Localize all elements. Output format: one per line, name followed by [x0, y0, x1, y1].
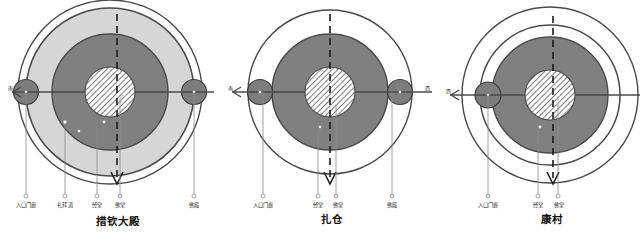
leader-endpoint — [192, 194, 196, 198]
diagram-khangtsen-graphic — [440, 0, 643, 233]
callout-label-assembly-hall: 经堂 — [313, 203, 323, 208]
marker-dot-buddha-hall — [122, 94, 124, 96]
direction-label-west: 西 — [446, 89, 451, 94]
marker-dot-buddha-hall — [319, 126, 322, 129]
diagram-tsokchen-graphic — [0, 0, 220, 233]
leader-endpoint — [486, 194, 490, 198]
callout-label-assembly-hall: 经堂 — [92, 203, 102, 208]
direction-label-west: 西 — [425, 86, 430, 91]
core-hatched-circle — [525, 70, 575, 120]
direction-label-south: 南 — [8, 86, 13, 91]
diagram-title-khangtsen: 康村 — [541, 214, 563, 225]
callout-label-buddha-hall: 佛堂 — [115, 203, 125, 208]
callout-label-entrance-porch: 入口门廊 — [253, 203, 274, 208]
callout-label-buddha-shrine: 佛殿 — [189, 203, 199, 208]
diagram-khangtsen: 西 入口门廊 经堂 佛堂 康村 — [440, 0, 643, 233]
leader-endpoint — [24, 194, 28, 198]
callout-label-assembly-hall: 经堂 — [533, 203, 543, 208]
callout-label-buddha-hall: 佛堂 — [554, 203, 564, 208]
diagram-title-tsokchen: 措钦大殿 — [96, 216, 140, 227]
diagram-dratsang-graphic — [220, 0, 440, 233]
leader-endpoint — [316, 194, 320, 198]
diagram-tsokchen: 南 入口门廊 礼拜道 经堂 佛堂 佛殿 措钦大殿 — [0, 0, 220, 233]
callout-label-entrance-porch: 入口门廊 — [16, 203, 37, 208]
leader-endpoint — [63, 194, 67, 198]
leader-endpoint — [390, 194, 394, 198]
entrance-node-center-dot — [259, 91, 262, 94]
callout-label-buddha-hall: 佛堂 — [333, 203, 343, 208]
marker-dot-assembly-hall — [539, 126, 542, 129]
diagram-dratsang: 南 西 入口门廊 经堂 佛堂 佛殿 扎仓 — [220, 0, 440, 233]
leader-endpoint — [334, 194, 338, 198]
leader-endpoint — [95, 194, 99, 198]
callout-label-circumambulation: 礼拜道 — [57, 203, 73, 208]
direction-label-south: 南 — [228, 86, 233, 91]
leader-endpoint — [118, 194, 122, 198]
marker-dot-assembly-hall — [312, 107, 315, 110]
leader-endpoint — [556, 194, 560, 198]
leader-endpoint — [536, 194, 540, 198]
diagram-title-dratsang: 扎仓 — [321, 214, 343, 225]
shrine-node-center-dot — [399, 91, 402, 94]
core-hatched-circle — [85, 67, 135, 117]
marker-dot-assembly-hall — [103, 121, 106, 124]
marker-dot-buddha-hall — [557, 99, 559, 101]
leader-origin-ring — [63, 120, 67, 124]
callout-label-entrance-porch: 入口门廊 — [478, 203, 499, 208]
callout-label-buddha-shrine: 佛殿 — [387, 203, 397, 208]
figure-canvas: 南 入口门廊 礼拜道 经堂 佛堂 佛殿 措钦大殿 — [0, 0, 643, 233]
leader-endpoint — [261, 194, 265, 198]
marker-dot-circumambulation — [78, 130, 81, 133]
